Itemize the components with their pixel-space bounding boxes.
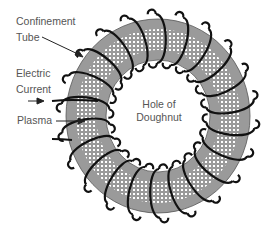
label-electric-line1: Electric [16,67,51,80]
label-confinement-tube: Confinement Tube [16,15,76,44]
label-hole-of-doughnut: Hole of Doughnut [129,98,189,124]
label-electric-line2: Current [16,83,51,96]
label-plasma: Plasma [17,114,52,127]
label-hole-line1: Hole of [129,98,189,111]
label-confinement-line2: Tube [16,31,76,44]
label-electric-current: Electric Current [16,67,51,96]
label-hole-line2: Doughnut [129,111,189,124]
label-confinement-line1: Confinement [16,15,76,28]
